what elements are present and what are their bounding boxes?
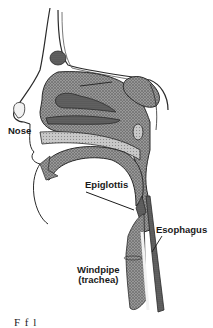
label-esophagus: Esophagus: [156, 225, 207, 235]
label-nose: Nose: [8, 126, 31, 136]
label-windpipe-line2: (trachea): [77, 275, 120, 285]
epiglottis-leader: [86, 192, 134, 210]
label-windpipe: Windpipe (trachea): [77, 265, 120, 285]
esophagus-shape: [146, 196, 164, 312]
frontal-sinus: [50, 51, 66, 65]
figure-caption-cutoff: F f l: [14, 316, 37, 328]
adenoid: [133, 124, 143, 140]
label-epiglottis: Epiglottis: [85, 180, 128, 190]
nostril: [14, 102, 25, 118]
tongue: [45, 147, 143, 206]
